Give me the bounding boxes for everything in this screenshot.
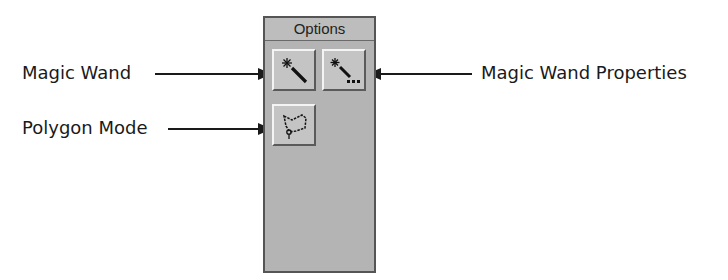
polygon-mode-button[interactable] [272, 104, 316, 146]
magic-wand-icon [278, 55, 312, 87]
panel-title: Options [265, 18, 374, 41]
magic-wand-button[interactable] [272, 49, 316, 91]
magic-wand-properties-button[interactable] [322, 49, 366, 91]
polygon-lasso-icon [278, 110, 312, 142]
callout-polygon-mode: Polygon Mode [22, 118, 148, 138]
options-panel: Options [263, 16, 376, 273]
arrow-magic-wand [155, 73, 270, 75]
arrow-polygon-mode [168, 128, 270, 130]
callout-magic-wand-properties: Magic Wand Properties [481, 63, 687, 83]
callout-magic-wand: Magic Wand [22, 63, 131, 83]
magic-wand-properties-icon [328, 55, 362, 87]
arrow-magic-wand-properties [369, 73, 472, 75]
